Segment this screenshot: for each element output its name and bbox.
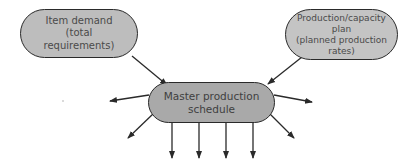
node-master-production-schedule-label: Master production schedule [164,90,260,116]
edge-item-demand-to-mps [132,56,167,85]
output-arrow-lower-left [128,113,154,138]
output-arrow-lower-right [269,113,294,138]
node-item-demand: Item demand (total requirements) [20,9,138,58]
output-arrow-left [110,95,149,101]
node-master-production-schedule: Master production schedule [148,82,275,123]
node-production-capacity-plan: Production/capacity plan (planned produc… [285,9,398,60]
node-item-demand-label: Item demand (total requirements) [44,15,115,53]
edge-capacity-plan-to-mps [268,57,302,84]
stray-dot [62,100,63,101]
node-production-capacity-plan-label: Production/capacity plan (planned produc… [296,13,387,57]
output-arrow-right [274,95,312,102]
